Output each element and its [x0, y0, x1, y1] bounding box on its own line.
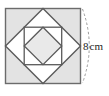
geometry-figure: 8cm	[0, 0, 109, 96]
side-dimension-unit: cm	[90, 40, 103, 52]
side-dimension-label: 8cm	[83, 40, 103, 53]
inner-diamond-fill	[24, 27, 62, 64]
side-dimension-value: 8	[83, 40, 89, 52]
